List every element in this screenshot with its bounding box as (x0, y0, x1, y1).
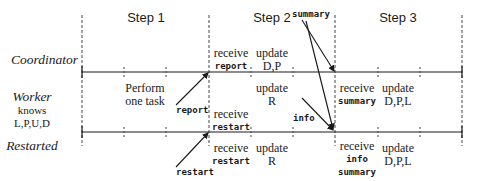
restart-text: restart (212, 155, 250, 168)
report-arrow (176, 73, 208, 105)
worker-vars-label: L,P,U,D (14, 117, 50, 130)
summary-to-coordinator-arrow (302, 20, 334, 71)
perform-line2: one task (125, 95, 165, 108)
vars-text: D,P (256, 60, 288, 73)
vars-text: D,P,L (382, 155, 414, 168)
receive-text: receive (212, 142, 250, 155)
step2-worker-receive-restart: receive restart (212, 108, 250, 134)
vars-text: D,P,L (382, 95, 414, 108)
receive-text: receive (338, 140, 376, 153)
coordinator-label: Coordinator (0, 53, 78, 66)
summary-message-label: summary (292, 8, 330, 21)
receive-text: receive (212, 108, 250, 121)
step3-worker-update-dpl: update D,P,L (382, 82, 414, 108)
step2-coord-receive-report: receive report (214, 47, 249, 73)
summary-text: summary (338, 95, 376, 108)
vars-text: R (256, 155, 288, 168)
step-2-header: Step 2 (253, 11, 291, 24)
step2-restarted-receive-restart: receive restart (212, 142, 250, 168)
worker-knows-label: knows (18, 104, 47, 117)
protocol-timeline-diagram: Step 1 Step 2 Step 3 Coordinator Worker … (0, 0, 481, 181)
perform-task-label: Perform one task (125, 82, 165, 108)
info-text: info (338, 153, 376, 166)
step3-worker-receive-summary: receive summary (338, 82, 376, 108)
vars-text: R (256, 95, 288, 108)
restarted-label: Restarted (6, 139, 58, 152)
receive-text: receive (338, 82, 376, 95)
report-message-label: report (176, 104, 209, 117)
restart-arrow (176, 133, 208, 167)
restart-message-label: restart (176, 166, 214, 179)
step2-restarted-update-r: update R (256, 142, 288, 168)
step2-worker-update-r: update R (256, 82, 288, 108)
report-text: report (214, 60, 249, 73)
step3-restarted-update-dpl: update D,P,L (382, 142, 414, 168)
summary-text: summary (338, 166, 376, 179)
worker-label: Worker (12, 90, 51, 103)
receive-text: receive (214, 47, 249, 60)
step2-coord-update-dp: update D,P (256, 47, 288, 73)
step-1-header: Step 1 (127, 11, 165, 24)
info-message-label: info (293, 112, 315, 125)
step3-restarted-receive-info-summary: receive info summary (338, 140, 376, 179)
step-3-header: Step 3 (379, 11, 417, 24)
restart-text: restart (212, 121, 250, 134)
